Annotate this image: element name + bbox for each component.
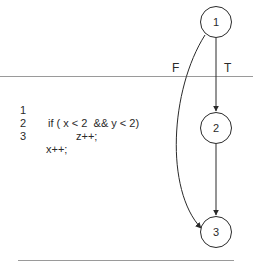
svg-text:2: 2 — [213, 122, 219, 134]
node-3: 3 — [201, 217, 232, 248]
svg-text:3: 3 — [213, 226, 219, 238]
control-flow-graph: 1 2 3 F T — [0, 0, 253, 263]
node-1: 1 — [201, 7, 232, 38]
edge-label-false: F — [172, 61, 179, 75]
svg-text:1: 1 — [213, 16, 219, 28]
node-2: 2 — [201, 113, 232, 144]
edge-label-true: T — [224, 61, 232, 75]
